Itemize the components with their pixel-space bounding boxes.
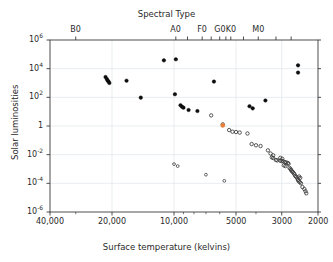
data-point-main-sequence-open	[305, 192, 308, 195]
data-point-main-sequence-open	[227, 128, 230, 131]
data-point-main-sequence-open	[250, 142, 253, 145]
data-point-bright-stars-filled	[162, 59, 166, 63]
y-tick-label: 1	[38, 122, 43, 130]
data-point-bright-stars-filled	[264, 99, 268, 103]
data-point-bright-stars-filled	[196, 109, 200, 113]
data-point-bright-stars-filled	[296, 64, 300, 68]
y-tick-label: 102	[29, 93, 43, 101]
data-point-bright-stars-filled	[296, 71, 300, 75]
data-point-bright-stars-filled	[187, 108, 191, 112]
data-point-sun-highlight	[221, 123, 225, 127]
data-point-main-sequence-open	[266, 149, 269, 152]
data-point-bright-stars-filled	[139, 96, 143, 100]
data-point-bright-stars-filled	[212, 80, 216, 84]
spectral-type-label-a0: A0	[170, 26, 181, 34]
data-point-bright-stars-filled	[174, 58, 178, 62]
data-point-bright-stars-filled	[125, 79, 129, 83]
data-point-main-sequence-open	[259, 144, 262, 147]
spectral-type-label-f0: F0	[197, 26, 207, 34]
data-point-bright-stars-filled	[173, 92, 177, 96]
data-point-main-sequence-open	[231, 130, 234, 133]
data-point-main-sequence-open	[254, 144, 257, 147]
data-point-main-sequence-open	[209, 114, 212, 117]
spectral-type-label-b0: B0	[70, 26, 81, 34]
data-point-white-dwarfs	[176, 165, 179, 168]
data-point-bright-stars-filled	[108, 81, 112, 85]
data-point-main-sequence-open	[238, 131, 241, 134]
data-point-white-dwarfs	[205, 173, 208, 176]
grid-lines	[50, 40, 318, 212]
spectral-type-label-k0: K0	[226, 26, 236, 34]
x-tick-label: 2000	[308, 218, 328, 226]
data-point-bright-stars-filled	[182, 106, 186, 110]
spectral-type-label-g0: G0	[214, 26, 225, 34]
y-tick-label: 10-2	[27, 151, 43, 159]
hr-diagram-figure: Spectral Type Surface temperature (kelvi…	[0, 0, 333, 262]
x-tick-label: 5000	[226, 218, 246, 226]
data-point-bright-stars-filled	[251, 107, 255, 111]
x-tick-label: 3000	[272, 218, 292, 226]
data-point-bright-stars-filled	[248, 104, 252, 108]
x-tick-label: 20,000	[98, 218, 126, 226]
x-tick-label: 10,000	[160, 218, 188, 226]
spectral-type-label-m0: M0	[252, 26, 264, 34]
y-tick-label: 10-4	[27, 179, 43, 187]
y-tick-label: 10-6	[27, 208, 43, 216]
x-tick-label: 40,000	[36, 218, 64, 226]
data-point-white-dwarfs	[223, 179, 226, 182]
y-tick-label: 106	[29, 36, 43, 44]
data-point-main-sequence-open	[246, 132, 249, 135]
y-tick-label: 104	[29, 65, 43, 73]
